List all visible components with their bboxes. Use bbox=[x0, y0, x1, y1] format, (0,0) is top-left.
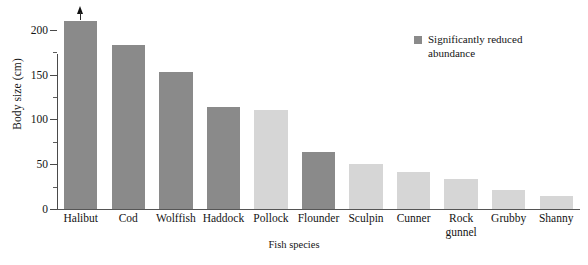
label-line: Flounder bbox=[295, 212, 343, 226]
legend-label-reduced: Significantly reducedabundance bbox=[428, 33, 522, 60]
x-category-label-wolffish: Wolffish bbox=[152, 212, 200, 226]
legend-swatch-reduced bbox=[414, 36, 422, 44]
label-line: Sculpin bbox=[342, 212, 390, 226]
label-line: Wolffish bbox=[152, 212, 200, 226]
bar-slot bbox=[254, 12, 287, 209]
x-category-label-halibut: Halibut bbox=[57, 212, 105, 226]
label-line: Shanny bbox=[532, 212, 580, 226]
x-category-label-rock-gunnel: Rockgunnel bbox=[437, 212, 485, 239]
bar-grubby[interactable] bbox=[492, 190, 525, 209]
x-category-label-shanny: Shanny bbox=[532, 212, 580, 226]
bar-slot bbox=[64, 12, 97, 209]
bar-chart-figure: Body size (cm) 050100150200 HalibutCodWo… bbox=[0, 0, 588, 265]
y-tick-label: 100 bbox=[31, 113, 48, 125]
label-line: Grubby bbox=[485, 212, 533, 226]
x-category-label-flounder: Flounder bbox=[295, 212, 343, 226]
bar-sculpin[interactable] bbox=[349, 164, 382, 209]
legend-label-line: abundance bbox=[428, 47, 522, 61]
x-axis-line bbox=[57, 209, 580, 210]
x-category-label-haddock: Haddock bbox=[200, 212, 248, 226]
legend-label-line: Significantly reduced bbox=[428, 33, 522, 47]
bar-halibut[interactable] bbox=[64, 21, 97, 209]
y-tick-label: 50 bbox=[37, 158, 49, 170]
y-tick-mark bbox=[50, 164, 57, 165]
bar-slot bbox=[207, 12, 240, 209]
x-category-label-grubby: Grubby bbox=[485, 212, 533, 226]
label-line: Pollock bbox=[247, 212, 295, 226]
x-category-label-cunner: Cunner bbox=[390, 212, 438, 226]
x-axis-title: Fish species bbox=[0, 239, 588, 250]
up-arrow-icon bbox=[80, 6, 81, 20]
x-category-label-pollock: Pollock bbox=[247, 212, 295, 226]
y-tick-label: 150 bbox=[31, 69, 48, 81]
label-line: gunnel bbox=[437, 226, 485, 240]
bar-wolffish[interactable] bbox=[159, 72, 192, 209]
y-axis-title: Body size (cm) bbox=[11, 39, 23, 149]
bar-cod[interactable] bbox=[112, 45, 145, 209]
bar-slot bbox=[159, 12, 192, 209]
label-line: Cunner bbox=[390, 212, 438, 226]
y-tick-label: 200 bbox=[31, 24, 48, 36]
bar-shanny[interactable] bbox=[540, 196, 573, 209]
bar-slot bbox=[349, 12, 382, 209]
label-line: Haddock bbox=[200, 212, 248, 226]
legend: Significantly reducedabundance bbox=[414, 33, 584, 60]
bar-pollock[interactable] bbox=[254, 110, 287, 209]
label-line: Halibut bbox=[57, 212, 105, 226]
y-tick-label: 0 bbox=[42, 203, 48, 215]
bar-cunner[interactable] bbox=[397, 172, 430, 209]
bar-slot bbox=[302, 12, 335, 209]
bar-haddock[interactable] bbox=[207, 107, 240, 209]
label-line: Rock bbox=[437, 212, 485, 226]
bar-rock-gunnel[interactable] bbox=[444, 179, 477, 209]
arrow-shaft bbox=[80, 12, 81, 20]
y-tick-mark bbox=[50, 30, 57, 31]
x-category-label-cod: Cod bbox=[105, 212, 153, 226]
x-category-label-sculpin: Sculpin bbox=[342, 212, 390, 226]
bar-flounder[interactable] bbox=[302, 152, 335, 209]
y-tick-mark bbox=[50, 209, 57, 210]
y-tick-mark bbox=[50, 75, 57, 76]
label-line: Cod bbox=[105, 212, 153, 226]
bar-slot bbox=[112, 12, 145, 209]
y-tick-mark bbox=[50, 119, 57, 120]
